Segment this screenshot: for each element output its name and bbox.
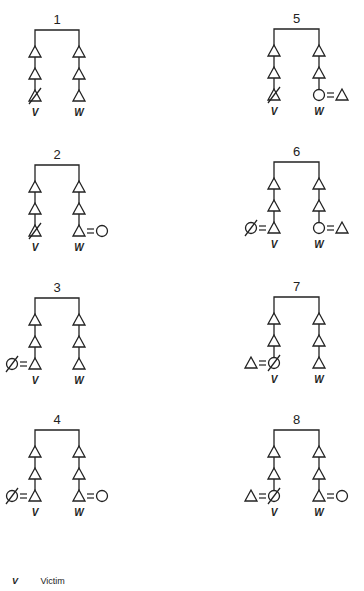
male-triangle-icon — [73, 46, 85, 57]
pedigree-panel-3: 3VW — [6, 280, 85, 386]
pedigree-panel-7: 7VW — [245, 279, 325, 385]
panel-number: 3 — [53, 280, 60, 295]
pedigree-panel-5: 5VW — [268, 11, 348, 117]
sibling-bracket — [274, 29, 319, 47]
sibling-bracket — [35, 430, 79, 448]
male-triangle-icon — [73, 314, 85, 325]
male-triangle-icon — [313, 335, 325, 346]
spouse-triangle-icon — [245, 357, 257, 368]
pedigree-diagram: 1VW2VW3VW4VW5VW6VW7VW8VW — [0, 0, 364, 591]
sibling-bracket — [274, 297, 319, 315]
male-triangle-icon — [73, 358, 85, 369]
sibling-bracket — [274, 162, 319, 180]
male-triangle-icon — [29, 203, 41, 214]
male-triangle-icon — [313, 490, 325, 501]
line-label: W — [74, 375, 85, 386]
pedigree-panel-6: 6VW — [245, 144, 348, 250]
male-triangle-icon — [29, 446, 41, 457]
male-triangle-icon — [29, 358, 41, 369]
line-label: V — [32, 242, 40, 253]
spouse-triangle-icon — [336, 222, 348, 233]
male-triangle-icon — [73, 490, 85, 501]
female-circle-icon — [314, 90, 325, 101]
male-triangle-icon — [268, 468, 280, 479]
spouse-circle-icon — [97, 491, 108, 502]
spouse-circle-icon — [97, 226, 108, 237]
sibling-bracket — [35, 30, 79, 48]
male-triangle-icon — [313, 313, 325, 324]
male-triangle-icon — [73, 68, 85, 79]
male-triangle-icon — [313, 178, 325, 189]
male-triangle-icon — [268, 222, 280, 233]
line-label: V — [32, 375, 40, 386]
female-circle-icon — [314, 223, 325, 234]
male-triangle-icon — [313, 45, 325, 56]
sibling-bracket — [35, 298, 79, 316]
male-triangle-icon — [29, 490, 41, 501]
male-triangle-icon — [29, 181, 41, 192]
spouse-circle-icon — [337, 491, 348, 502]
male-triangle-icon — [29, 336, 41, 347]
spouse-triangle-icon — [245, 490, 257, 501]
line-label: W — [74, 107, 85, 118]
male-triangle-icon — [268, 446, 280, 457]
male-triangle-icon — [268, 67, 280, 78]
panel-number: 4 — [53, 412, 60, 427]
male-triangle-icon — [268, 45, 280, 56]
legend-symbol-v: V — [12, 576, 38, 586]
male-triangle-icon — [313, 468, 325, 479]
male-triangle-icon — [73, 446, 85, 457]
panel-number: 5 — [293, 11, 300, 26]
male-triangle-icon — [73, 225, 85, 236]
legend: V Victim — [12, 576, 65, 586]
line-label: V — [271, 106, 279, 117]
panel-number: 8 — [293, 412, 300, 427]
line-label: W — [74, 507, 85, 518]
male-triangle-icon — [313, 357, 325, 368]
line-label: W — [314, 507, 325, 518]
male-triangle-icon — [29, 314, 41, 325]
male-triangle-icon — [73, 336, 85, 347]
sibling-bracket — [274, 430, 319, 448]
legend-label-victim: Victim — [41, 576, 65, 586]
sibling-bracket — [35, 165, 79, 183]
line-label: W — [314, 374, 325, 385]
male-triangle-icon — [268, 200, 280, 211]
line-label: V — [32, 107, 40, 118]
pedigree-panel-1: 1VW — [29, 12, 85, 118]
pedigree-panel-2: 2VW — [29, 147, 108, 253]
line-label: V — [271, 239, 279, 250]
line-label: W — [314, 106, 325, 117]
male-triangle-icon — [73, 90, 85, 101]
male-triangle-icon — [313, 446, 325, 457]
male-triangle-icon — [29, 68, 41, 79]
male-triangle-icon — [73, 181, 85, 192]
male-triangle-icon — [29, 468, 41, 479]
line-label: W — [74, 242, 85, 253]
panel-number: 1 — [53, 12, 60, 27]
male-triangle-icon — [268, 313, 280, 324]
line-label: V — [271, 374, 279, 385]
male-triangle-icon — [313, 67, 325, 78]
pedigree-panel-8: 8VW — [245, 412, 348, 518]
male-triangle-icon — [29, 46, 41, 57]
line-label: V — [271, 507, 279, 518]
male-triangle-icon — [73, 468, 85, 479]
pedigree-panel-4: 4VW — [6, 412, 108, 518]
male-triangle-icon — [73, 203, 85, 214]
panel-number: 6 — [293, 144, 300, 159]
panel-number: 7 — [293, 279, 300, 294]
line-label: V — [32, 507, 40, 518]
male-triangle-icon — [313, 200, 325, 211]
male-triangle-icon — [268, 178, 280, 189]
line-label: W — [314, 239, 325, 250]
spouse-triangle-icon — [336, 89, 348, 100]
panel-number: 2 — [53, 147, 60, 162]
male-triangle-icon — [268, 335, 280, 346]
